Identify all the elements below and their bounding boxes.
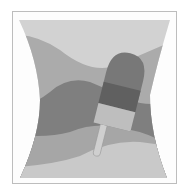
popsicle-illustration: [0, 0, 190, 191]
